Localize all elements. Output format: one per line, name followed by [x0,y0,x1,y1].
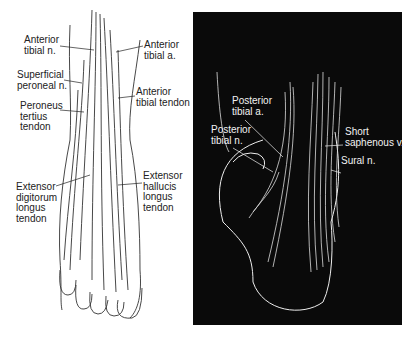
label-posterior-tibial-a: Posterior tibial a. [232,96,272,117]
label-posterior-tibial-n: Posterior tibial n. [211,125,251,146]
label-extensor-hallucis-longus-tendon: Extensor hallucis longus tendon [143,171,182,213]
label-short-saphenous-v: Short saphenous v. [345,127,404,148]
heel-line-drawing [193,12,402,325]
label-extensor-digitorum-longus-tendon: Extensor digitorum longus tendon [16,182,57,224]
label-anterior-tibial-tendon: Anterior tibial tendon [136,87,190,108]
anterior-foot-illustration: Anterior tibial n. Superficial peroneal … [0,0,193,339]
label-sural-n: Sural n. [341,156,375,167]
label-peroneus-tertius-tendon: Peroneus tertius tendon [20,101,63,133]
label-anterior-tibial-n: Anterior tibial n. [24,35,59,56]
label-anterior-tibial-a: Anterior tibial a. [144,40,179,61]
label-superficial-peroneal-n: Superficial peroneal n. [17,70,67,91]
posterior-heel-illustration: Posterior tibial a. Posterior tibial n. … [193,12,402,325]
